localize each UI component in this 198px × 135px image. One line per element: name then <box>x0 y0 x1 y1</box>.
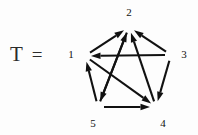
edges-layer <box>86 30 170 110</box>
arrowhead-3-to-4 <box>157 91 163 101</box>
edge-3-to-4 <box>160 61 169 92</box>
digraph-canvas: 12345 <box>0 0 198 135</box>
node-label-1: 1 <box>68 48 74 60</box>
edge-3-to-1 <box>101 55 166 56</box>
arrowhead-5-to-4 <box>141 104 151 110</box>
edge-5-to-1 <box>89 71 97 101</box>
node-label-3: 3 <box>181 48 187 60</box>
node-label-5: 5 <box>90 117 96 129</box>
node-label-4: 4 <box>160 117 166 129</box>
node-label-2: 2 <box>126 6 132 18</box>
arrowhead-1-to-2 <box>114 30 124 38</box>
arrowhead-4-to-2 <box>131 33 137 43</box>
arrowhead-3-to-1 <box>91 53 101 59</box>
edge-3-to-2 <box>142 36 166 52</box>
tournament-digraph-figure: T = 12345 <box>0 0 198 135</box>
edge-1-to-4 <box>90 60 144 98</box>
edge-1-to-2 <box>90 36 116 53</box>
arrowhead-5-to-1 <box>86 62 92 72</box>
arrowhead-2-to-5 <box>100 91 106 101</box>
